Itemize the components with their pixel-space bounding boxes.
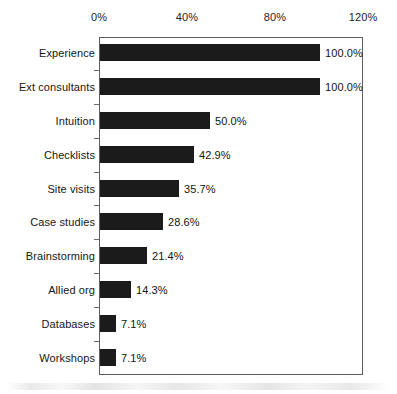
xtick-label-120: 120% xyxy=(349,11,378,24)
bar-ext-consultants xyxy=(100,78,320,95)
ytick-mark-2 xyxy=(94,104,99,105)
ytick-mark-9 xyxy=(94,341,99,342)
bar-case-studies xyxy=(100,213,163,230)
scan-artifact xyxy=(8,383,389,390)
ytick-mark-3 xyxy=(94,138,99,139)
bar-allied-org xyxy=(100,281,131,298)
category-label-allied-org: Allied org xyxy=(48,284,95,297)
bar-value-site-visits: 35.7% xyxy=(184,183,216,196)
category-label-checklists: Checklists xyxy=(44,149,95,162)
category-label-case-studies: Case studies xyxy=(30,216,95,229)
bar-value-case-studies: 28.6% xyxy=(168,216,200,229)
bar-value-allied-org: 14.3% xyxy=(136,284,168,297)
bar-value-ext-consultants: 100.0% xyxy=(325,81,363,94)
category-label-experience: Experience xyxy=(39,47,95,60)
bar-brainstorming xyxy=(100,247,147,264)
category-label-site-visits: Site visits xyxy=(47,183,95,196)
category-label-databases: Databases xyxy=(42,318,96,331)
bar-value-brainstorming: 21.4% xyxy=(152,250,184,263)
bar-workshops xyxy=(100,349,116,366)
ytick-mark-8 xyxy=(94,307,99,308)
ytick-mark-7 xyxy=(94,273,99,274)
bar-value-databases: 7.1% xyxy=(121,318,146,331)
bar-site-visits xyxy=(100,180,179,197)
bar-intuition xyxy=(100,112,210,129)
bar-value-intuition: 50.0% xyxy=(215,115,247,128)
xtick-label-0: 0% xyxy=(91,11,107,24)
ytick-mark-6 xyxy=(94,239,99,240)
bar-value-workshops: 7.1% xyxy=(121,352,146,365)
category-label-brainstorming: Brainstorming xyxy=(26,250,95,263)
category-label-ext-consultants: Ext consultants xyxy=(19,81,95,94)
category-label-workshops: Workshops xyxy=(39,352,95,365)
bar-value-checklists: 42.9% xyxy=(199,149,231,162)
category-label-intuition: Intuition xyxy=(56,115,95,128)
bar-value-experience: 100.0% xyxy=(325,47,363,60)
xtick-label-40: 40% xyxy=(176,11,198,24)
ytick-mark-1 xyxy=(94,70,99,71)
bar-experience xyxy=(100,44,320,61)
bar-databases xyxy=(100,315,116,332)
horizontal-bar-chart: 0% 40% 80% 120% Experience 100.0% Ext co… xyxy=(0,0,397,394)
xtick-label-80: 80% xyxy=(264,11,286,24)
ytick-mark-5 xyxy=(94,205,99,206)
bar-checklists xyxy=(100,146,194,163)
ytick-mark-4 xyxy=(94,172,99,173)
